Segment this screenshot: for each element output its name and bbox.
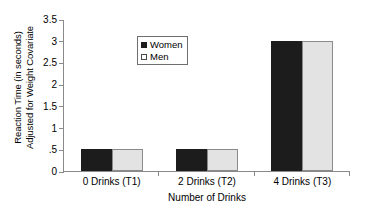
y-tick-label: 0 [51,167,59,177]
bar-chart-figure: Reaction Time (in seconds) Adjusted for … [0,0,365,222]
x-axis-title: Number of Drinks [64,192,350,204]
y-axis-title-line-2: Adjusted for Weight Covariate [24,26,35,149]
y-tick-label: .5 [49,145,59,155]
x-tick-label-2-drinks: 2 Drinks (T2) [159,176,254,188]
x-tick-label-4-drinks: 4 Drinks (T3) [255,176,350,188]
bar-men-2-drinks[interactable] [207,149,238,171]
y-axis-title-line-1: Reaction Time (in seconds) [12,31,23,144]
y-tick-label: 3.5 [43,15,59,25]
y-axis-title: Reaction Time (in seconds) Adjusted for … [0,0,46,175]
legend-entry-men[interactable]: Men [141,51,183,62]
bar-men-4-drinks[interactable] [302,41,333,171]
plot-area: 0 .5 1 1.5 2 2.5 3 3.5 [63,20,350,172]
bar-groups [64,20,350,171]
y-tick-mark [59,63,63,64]
bar-men-0-drinks[interactable] [112,149,143,171]
y-tick-label: 3 [51,37,59,47]
x-tick-label-0-drinks: 0 Drinks (T1) [64,176,159,188]
legend-label-women: Women [150,39,183,50]
bar-group-4-drinks [255,20,350,171]
legend: Women Men [137,36,188,65]
filled-square-icon [141,42,147,48]
y-tick-label: 2 [51,80,59,90]
y-tick-label: 2.5 [43,58,59,68]
y-tick-mark [59,85,63,86]
y-tick-mark [59,150,63,151]
bar-women-0-drinks[interactable] [81,149,112,171]
open-square-icon [141,54,147,60]
y-tick-label: 1.5 [43,102,59,112]
y-tick-mark [59,41,63,42]
y-tick-mark [59,172,63,173]
legend-entry-women[interactable]: Women [141,39,183,50]
bar-women-2-drinks[interactable] [176,149,207,171]
y-tick-mark [59,20,63,21]
y-tick-mark [59,106,63,107]
legend-label-men: Men [150,51,168,62]
y-tick-label: 1 [51,124,59,134]
x-axis-tick-labels: 0 Drinks (T1) 2 Drinks (T2) 4 Drinks (T3… [64,176,350,188]
y-tick-mark [59,128,63,129]
bar-women-4-drinks[interactable] [271,41,302,171]
